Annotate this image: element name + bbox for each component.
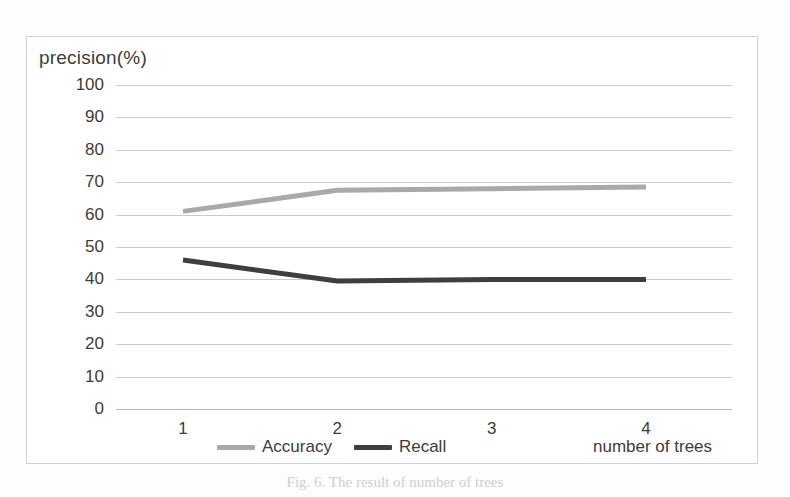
y-axis-tick-label: 40 (44, 269, 104, 289)
legend-label: Recall (399, 437, 446, 457)
scanned-page: precision(%) 1009080706050403020100 1234… (0, 0, 790, 497)
x-axis-tick-label: 1 (178, 419, 187, 439)
x-axis-tick-label: 2 (333, 419, 342, 439)
chart-legend: AccuracyRecall (217, 437, 446, 457)
y-axis-tick-label: 50 (44, 237, 104, 257)
x-axis-tick-label: 4 (641, 419, 650, 439)
series-line-recall (183, 260, 646, 281)
series-lines (116, 85, 732, 409)
y-axis-tick-label: 100 (44, 75, 104, 95)
gridline (116, 409, 732, 410)
figure-caption: Fig. 6. The result of number of trees (0, 474, 790, 497)
y-axis-tick-label: 70 (44, 172, 104, 192)
legend-swatch-icon (354, 445, 392, 450)
plot-area: 1009080706050403020100 1234 (116, 85, 732, 409)
legend-item-recall[interactable]: Recall (354, 437, 446, 457)
chart-frame: precision(%) 1009080706050403020100 1234… (26, 36, 758, 464)
y-axis-title: precision(%) (39, 47, 147, 69)
series-line-accuracy (183, 187, 646, 211)
y-axis-tick-label: 60 (44, 205, 104, 225)
y-axis-tick-label: 10 (44, 367, 104, 387)
legend-label: Accuracy (262, 437, 332, 457)
legend-swatch-icon (217, 445, 255, 450)
y-axis-tick-label: 80 (44, 140, 104, 160)
x-axis-tick-label: 3 (487, 419, 496, 439)
y-axis-tick-label: 0 (44, 399, 104, 419)
x-axis-title: number of trees (593, 437, 712, 457)
legend-item-accuracy[interactable]: Accuracy (217, 437, 332, 457)
y-axis-tick-label: 20 (44, 334, 104, 354)
y-axis-tick-label: 30 (44, 302, 104, 322)
y-axis-tick-label: 90 (44, 107, 104, 127)
